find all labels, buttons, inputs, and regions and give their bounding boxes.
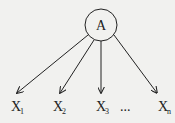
- child-subscript: 3: [105, 107, 109, 116]
- child-subscript: 1: [20, 107, 24, 116]
- edge-a-x2: [60, 40, 94, 93]
- child-node-xn: X n: [158, 99, 171, 116]
- root-node: A: [85, 9, 117, 41]
- edge-a-xn: [114, 35, 157, 93]
- root-node-label: A: [96, 18, 107, 33]
- child-node-x2: X 2: [53, 99, 66, 116]
- tree-diagram: A X 1 X 2 X 3 ... X n: [0, 0, 175, 123]
- child-subscript: 2: [62, 107, 66, 116]
- ellipsis: ...: [120, 99, 131, 114]
- child-node-x1: X 1: [11, 99, 24, 116]
- edge-a-x1: [17, 35, 88, 93]
- child-subscript: n: [167, 107, 171, 116]
- child-node-x3: X 3: [96, 99, 109, 116]
